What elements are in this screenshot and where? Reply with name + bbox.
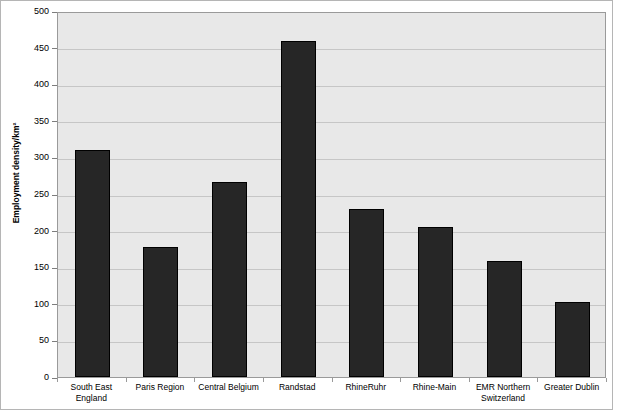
x-axis-tick-label: South EastEngland bbox=[57, 382, 126, 403]
y-axis-tick-label: 450 bbox=[5, 44, 49, 53]
chart-figure: Employment density/km² 05010015020025030… bbox=[0, 0, 620, 417]
y-axis-tick-label: 250 bbox=[5, 190, 49, 199]
bar bbox=[487, 261, 522, 377]
y-axis-tick-label: 200 bbox=[5, 227, 49, 236]
bar bbox=[75, 150, 110, 377]
x-axis-tick-mark bbox=[606, 378, 607, 382]
x-axis-tick-label-line: Paris Region bbox=[126, 382, 195, 393]
x-axis-tick-label-line: EMR Northern bbox=[469, 382, 538, 393]
y-axis-title: Employment density/km² bbox=[11, 113, 21, 233]
bar bbox=[143, 247, 178, 377]
y-axis-tick-label: 0 bbox=[5, 373, 49, 382]
x-axis-tick-label-line: England bbox=[57, 393, 126, 404]
bar-series bbox=[58, 13, 605, 377]
bar bbox=[212, 182, 247, 377]
x-axis-tick-label-line: South East bbox=[57, 382, 126, 393]
y-axis-tick-label: 50 bbox=[5, 336, 49, 345]
x-axis-tick-label: Paris Region bbox=[126, 382, 195, 393]
y-axis-tick-label: 400 bbox=[5, 80, 49, 89]
bar bbox=[555, 302, 590, 377]
bar bbox=[349, 209, 384, 377]
x-axis-tick-label: Greater Dublin bbox=[537, 382, 606, 393]
x-axis-tick-label-line: Greater Dublin bbox=[537, 382, 606, 393]
x-axis-tick-label: RhineRuhr bbox=[332, 382, 401, 393]
x-axis-tick-label-line: Rhine-Main bbox=[400, 382, 469, 393]
x-axis-tick-label-line: Randstad bbox=[263, 382, 332, 393]
x-axis-tick-label-line: RhineRuhr bbox=[332, 382, 401, 393]
y-axis-tick-label: 500 bbox=[5, 7, 49, 16]
x-axis-tick-label: Randstad bbox=[263, 382, 332, 393]
x-axis-tick-label: EMR NorthernSwitzerland bbox=[469, 382, 538, 403]
x-axis-tick-label-line: Switzerland bbox=[469, 393, 538, 404]
y-axis-tick-label: 350 bbox=[5, 117, 49, 126]
y-axis-tick-label: 100 bbox=[5, 300, 49, 309]
x-axis-tick-label: Rhine-Main bbox=[400, 382, 469, 393]
x-axis-tick-label: Central Belgium bbox=[194, 382, 263, 393]
plot-area bbox=[57, 12, 606, 378]
bar bbox=[281, 41, 316, 377]
y-axis-tick-label: 300 bbox=[5, 153, 49, 162]
x-axis-tick-label-line: Central Belgium bbox=[194, 382, 263, 393]
y-axis-tick-label: 150 bbox=[5, 263, 49, 272]
bar bbox=[418, 227, 453, 377]
